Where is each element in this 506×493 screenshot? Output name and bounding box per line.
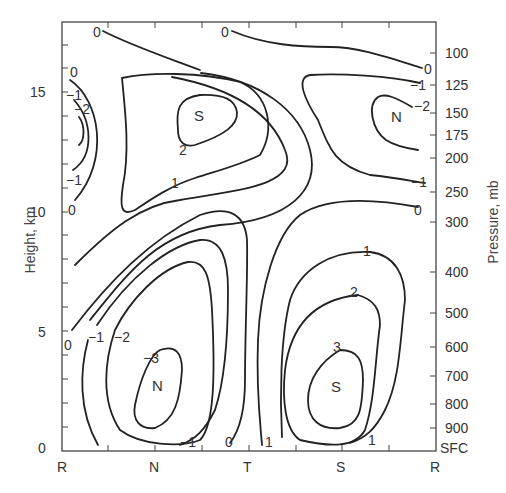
- bottom-axis-labels: R N T S R: [57, 459, 440, 475]
- svg-text:500: 500: [445, 305, 469, 321]
- contour-chart: 0 5 10 15 Height, km 100 125 150 175 200…: [0, 0, 506, 493]
- svg-text:150: 150: [445, 105, 469, 121]
- svg-text:−2: −2: [74, 101, 90, 117]
- center-lower-s: S: [331, 378, 341, 395]
- svg-text:R: R: [57, 459, 67, 475]
- svg-text:300: 300: [445, 214, 469, 230]
- svg-text:0: 0: [414, 202, 422, 218]
- right-axis-labels: 100 125 150 175 200 250 300 400 500 600 …: [440, 45, 469, 456]
- svg-text:0: 0: [225, 434, 233, 450]
- svg-text:250: 250: [445, 184, 469, 200]
- svg-text:0: 0: [424, 61, 432, 77]
- svg-text:1: 1: [171, 175, 179, 191]
- contour-lines: [70, 31, 425, 445]
- svg-text:1: 1: [265, 434, 273, 450]
- svg-text:−3: −3: [143, 350, 159, 366]
- svg-text:−2: −2: [114, 329, 130, 345]
- svg-text:0: 0: [64, 337, 72, 353]
- svg-text:0: 0: [221, 24, 229, 40]
- svg-text:0: 0: [70, 64, 78, 80]
- svg-text:0: 0: [93, 24, 101, 40]
- svg-text:400: 400: [445, 264, 469, 280]
- contour-labels: 0 0 0 −1 −2 −1 0 1 2 3 2 1 0 −1 −2 −1 0 …: [64, 24, 432, 450]
- svg-text:−1: −1: [88, 329, 104, 345]
- svg-text:900: 900: [445, 420, 469, 436]
- svg-text:800: 800: [445, 396, 469, 412]
- svg-text:−2: −2: [414, 98, 430, 114]
- left-tick-5: 5: [38, 324, 46, 340]
- svg-text:T: T: [243, 459, 252, 475]
- svg-text:−1: −1: [411, 174, 427, 190]
- right-axis-ticks: [430, 53, 436, 428]
- svg-text:100: 100: [445, 45, 469, 61]
- center-upper-s: S: [194, 107, 204, 124]
- svg-text:R: R: [430, 459, 440, 475]
- svg-text:−1: −1: [66, 172, 82, 188]
- svg-text:2: 2: [179, 142, 187, 158]
- svg-text:1: 1: [363, 243, 371, 259]
- svg-text:−1: −1: [180, 434, 196, 450]
- svg-text:S: S: [336, 459, 345, 475]
- svg-text:−1: −1: [410, 77, 426, 93]
- right-axis-title: Pressure, mb: [485, 180, 501, 263]
- svg-text:700: 700: [445, 368, 469, 384]
- svg-text:N: N: [149, 459, 159, 475]
- svg-text:SFC: SFC: [440, 440, 468, 456]
- svg-text:175: 175: [445, 127, 469, 143]
- svg-text:0: 0: [68, 202, 76, 218]
- svg-text:2: 2: [350, 284, 358, 300]
- center-upper-n: N: [391, 108, 402, 125]
- svg-text:3: 3: [333, 339, 341, 355]
- left-tick-15: 15: [30, 84, 46, 100]
- left-axis-title: Height, km: [22, 207, 38, 274]
- svg-text:200: 200: [445, 150, 469, 166]
- center-lower-n: N: [152, 377, 163, 394]
- svg-text:600: 600: [445, 339, 469, 355]
- left-tick-0: 0: [38, 440, 46, 456]
- svg-text:1: 1: [368, 432, 376, 448]
- svg-text:125: 125: [445, 77, 469, 93]
